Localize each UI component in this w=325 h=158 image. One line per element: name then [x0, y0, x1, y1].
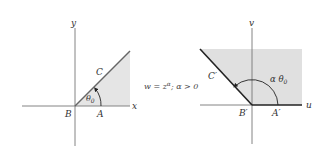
- conformal-map-diagram: y x B A C θ0 w = zα; α > 0 v u B′ A′ C′ …: [0, 0, 325, 158]
- mapping-equation: w = zα; α > 0: [144, 80, 198, 91]
- point-a-prime: A′: [271, 108, 281, 118]
- point-b: B: [64, 109, 72, 119]
- x-axis-label: x: [132, 101, 137, 111]
- w-plane: v u B′ A′ C′ α θ0: [200, 18, 312, 144]
- v-axis-label: v: [249, 18, 254, 28]
- point-c: C: [96, 67, 103, 77]
- point-b-prime: B′: [238, 108, 248, 118]
- y-axis-label: y: [70, 18, 77, 28]
- z-plane: y x B A C θ0: [22, 18, 137, 146]
- point-c-prime: C′: [208, 71, 217, 81]
- u-axis-label: u: [306, 100, 312, 110]
- point-a: A: [96, 109, 104, 119]
